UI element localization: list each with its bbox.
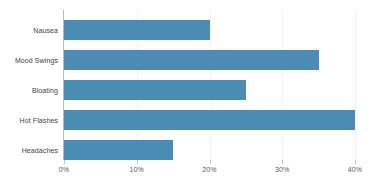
x-tick-mark-10: [137, 160, 138, 164]
x-tick-label-30: 30%: [275, 166, 290, 173]
x-tick-mark-20: [210, 160, 211, 164]
y-axis-label-hot-flashes: Hot Flashes: [0, 117, 58, 124]
bar-chart: Nausea Mood Swings Bloating Hot Flashes …: [0, 0, 383, 191]
y-axis-label-mood-swings: Mood Swings: [0, 57, 58, 64]
bar-row: [64, 20, 355, 40]
y-axis-label-nausea: Nausea: [0, 27, 58, 34]
bar-mood-swings[interactable]: [64, 50, 319, 70]
y-axis-label-bloating: Bloating: [0, 87, 58, 94]
bar-headaches[interactable]: [64, 140, 173, 160]
x-tick-label-10: 10%: [129, 166, 144, 173]
bar-row: [64, 80, 355, 100]
y-axis-line: [63, 10, 64, 160]
y-axis-label-headaches: Headaches: [0, 147, 58, 154]
x-tick-label-0: 0%: [59, 166, 70, 173]
plot-area: [64, 10, 355, 160]
bar-row: [64, 140, 355, 160]
bar-row: [64, 110, 355, 130]
x-tick-mark-0: [64, 160, 65, 164]
x-tick-label-20: 20%: [202, 166, 217, 173]
bar-nausea[interactable]: [64, 20, 210, 40]
x-tick-mark-30: [282, 160, 283, 164]
bar-row: [64, 50, 355, 70]
gridline-40: [355, 10, 356, 160]
bar-hot-flashes[interactable]: [64, 110, 355, 130]
bar-bloating[interactable]: [64, 80, 246, 100]
x-tick-mark-40: [355, 160, 356, 164]
x-tick-label-40: 40%: [348, 166, 363, 173]
